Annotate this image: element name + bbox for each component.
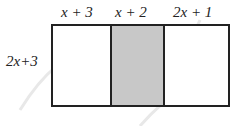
region-3 bbox=[165, 26, 228, 105]
region-1 bbox=[53, 26, 110, 105]
label-top-2: x + 2 bbox=[115, 5, 147, 20]
label-top-1: x + 3 bbox=[61, 5, 93, 20]
rectangle bbox=[51, 24, 230, 107]
region-2-shaded bbox=[112, 26, 163, 105]
label-side: 2x+3 bbox=[6, 54, 38, 69]
label-top-3: 2x + 1 bbox=[173, 5, 212, 20]
